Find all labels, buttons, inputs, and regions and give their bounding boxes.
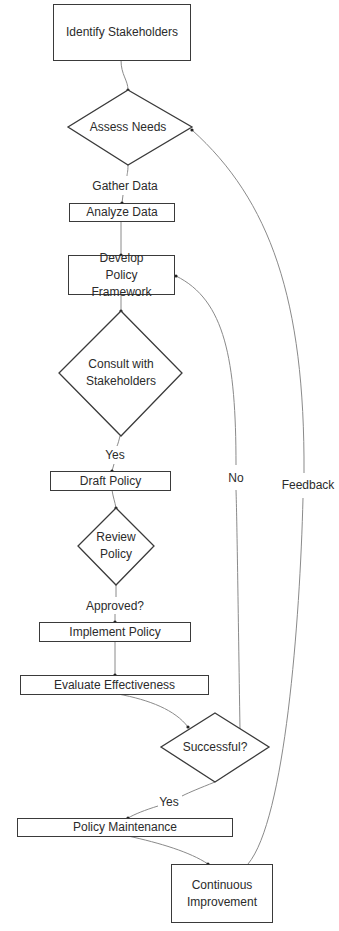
edge-label-approved: Approved? <box>86 599 144 613</box>
node-label: Evaluate Effectiveness <box>54 677 175 694</box>
edge-maintenance-improvement <box>128 836 208 864</box>
node-label: Assess Needs <box>90 119 167 136</box>
flowchart-connectors <box>0 0 339 931</box>
edge-assess-analyze <box>127 165 128 176</box>
edge-draft-review <box>112 490 116 508</box>
edge-label-yes-consult: Yes <box>105 448 125 462</box>
node-label: Review Policy <box>90 529 142 563</box>
diamond-label-review: Review Policy <box>86 528 146 564</box>
edge-identify-assess <box>121 60 128 90</box>
edge-label-no: No <box>228 471 243 485</box>
node-implement-policy: Implement Policy <box>39 622 191 642</box>
node-label: Analyze Data <box>86 204 157 221</box>
node-label: Implement Policy <box>69 624 160 641</box>
node-label: Draft Policy <box>80 473 141 490</box>
diamond-label-successful: Successful? <box>170 738 260 756</box>
diamond-label-assess-needs: Assess Needs <box>78 118 178 136</box>
edge-label-gather-data: Gather Data <box>92 179 157 193</box>
node-label: Develop Policy Framework <box>83 250 160 301</box>
edge-successful-maintenance <box>182 782 215 796</box>
node-label: Consult with Stakeholders <box>77 356 165 390</box>
node-evaluate-effectiveness: Evaluate Effectiveness <box>20 675 209 695</box>
edge-consult-draft <box>117 436 120 446</box>
node-label: Policy Maintenance <box>73 819 177 836</box>
node-label: Identify Stakeholders <box>66 24 178 41</box>
edge-no-loop <box>176 276 240 730</box>
node-draft-policy: Draft Policy <box>50 471 171 491</box>
node-develop-policy-framework: Develop Policy Framework <box>68 255 175 295</box>
diamond-label-consult: Consult with Stakeholders <box>71 355 171 391</box>
node-analyze-data: Analyze Data <box>69 203 175 222</box>
edge-evaluate-successful <box>118 694 188 727</box>
node-label: Continuous Improvement <box>186 877 258 911</box>
node-identify-stakeholders: Identify Stakeholders <box>53 4 191 61</box>
node-policy-maintenance: Policy Maintenance <box>17 818 233 837</box>
edge-label-feedback: Feedback <box>282 478 335 492</box>
node-label: Successful? <box>183 739 248 756</box>
edge-label-yes-successful: Yes <box>159 795 179 809</box>
node-continuous-improvement: Continuous Improvement <box>171 864 273 923</box>
